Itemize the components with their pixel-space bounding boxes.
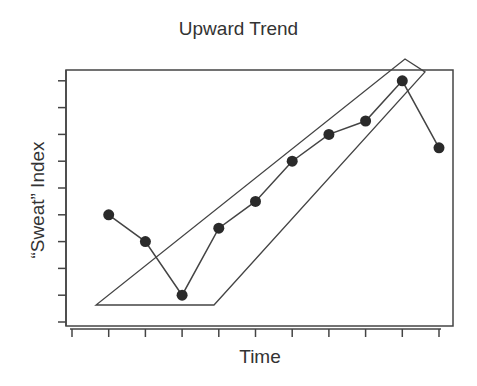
- data-point: [177, 290, 188, 301]
- data-point: [323, 129, 334, 140]
- chart-plot-area: [0, 0, 477, 386]
- data-point: [287, 156, 298, 167]
- data-point: [213, 223, 224, 234]
- y-axis-label: “Sweat” Index: [27, 141, 49, 258]
- data-point: [103, 209, 114, 220]
- x-axis-ticks: [72, 329, 439, 337]
- series-line: [109, 81, 439, 295]
- data-points: [103, 75, 444, 300]
- y-axis-ticks: [58, 81, 66, 322]
- data-point: [140, 236, 151, 247]
- data-point: [360, 116, 371, 127]
- data-point: [434, 142, 445, 153]
- data-point: [250, 196, 261, 207]
- data-point: [397, 75, 408, 86]
- trend-highlight-polygon: [96, 59, 425, 305]
- x-axis-label: Time: [190, 346, 330, 368]
